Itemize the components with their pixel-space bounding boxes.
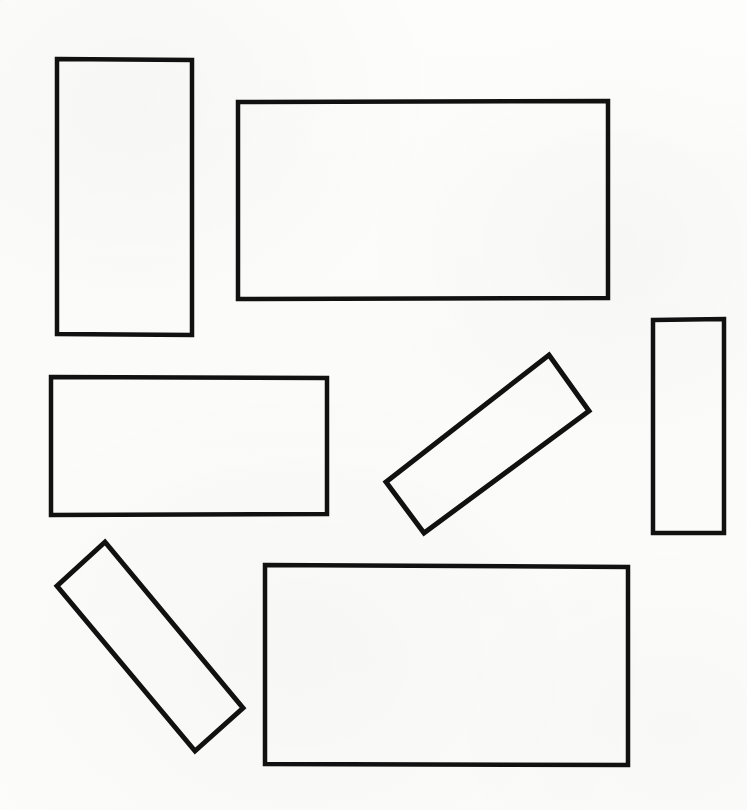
rect-wide-upper-right: Large wide rectangle, upper right xyxy=(238,101,608,299)
rect-tall-upper-left: Tall upright rectangle, upper left xyxy=(57,59,192,335)
rectangles-figure: Tall upright rectangle, upper leftLarge … xyxy=(0,0,747,810)
rect-tilted-bottom-left: Tilted narrow rectangle, bottom left xyxy=(57,542,243,751)
rect-tilted-middle-right: Tilted narrow rectangle, middle right xyxy=(386,355,589,533)
rect-wide-middle-left: Wide rectangle, middle left xyxy=(51,377,327,515)
rect-wide-bottom-right: Large wide rectangle, bottom right xyxy=(265,565,628,765)
shape-layer: Tall upright rectangle, upper leftLarge … xyxy=(51,59,724,765)
figure-canvas: Tall upright rectangle, upper leftLarge … xyxy=(0,0,747,810)
rect-tall-right-edge: Narrow tall rectangle, right edge xyxy=(653,319,724,533)
